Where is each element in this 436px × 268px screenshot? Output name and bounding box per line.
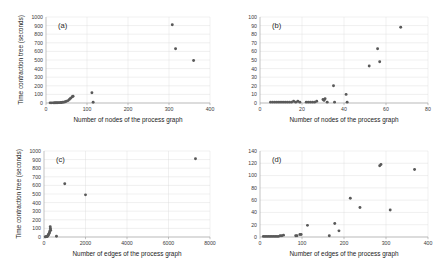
data-point	[282, 234, 285, 237]
data-point	[90, 91, 93, 94]
data-point	[368, 65, 371, 68]
data-point	[174, 47, 177, 50]
data-point	[380, 163, 383, 166]
data-point	[296, 234, 299, 237]
y-tick-label: 600	[34, 48, 43, 54]
plot-area-a: 0100200300400500600700800900100001002003…	[17, 14, 214, 124]
y-tick-label: 300	[32, 208, 41, 214]
data-point	[399, 26, 402, 29]
data-point	[194, 157, 197, 160]
y-tick-label: 0	[254, 234, 257, 240]
y-tick-label: 60	[251, 197, 257, 203]
y-tick-label: 70	[251, 40, 257, 46]
y-tick-label: 600	[32, 182, 41, 188]
data-point	[345, 93, 348, 96]
x-axis-title: Number of edges of the process graph	[289, 250, 399, 258]
data-point	[376, 47, 379, 50]
y-tick-label: 200	[34, 83, 43, 89]
data-point	[300, 233, 303, 236]
y-tick-label: 200	[32, 217, 41, 223]
x-tick-label: 0	[259, 240, 262, 246]
y-tick-label: 900	[32, 157, 41, 163]
data-point	[328, 234, 331, 237]
scatter-plot-c: 0100200300400500600700800900100002000400…	[0, 134, 218, 268]
x-tick-label: 0	[43, 240, 46, 246]
y-tick-label: 800	[32, 165, 41, 171]
y-tick-label: 500	[34, 57, 43, 63]
plot-area-b: 0102030405060708090100020406080Number of…	[248, 14, 431, 124]
y-tick-label: 140	[248, 148, 257, 154]
y-tick-label: 80	[251, 31, 257, 37]
y-tick-label: 10	[251, 91, 257, 97]
x-tick-label: 200	[124, 106, 133, 112]
y-tick-label: 40	[251, 209, 257, 215]
data-point	[55, 235, 58, 238]
data-point	[192, 59, 195, 62]
x-tick-label: 300	[165, 106, 174, 112]
x-tick-label: 200	[340, 240, 349, 246]
y-tick-label: 100	[34, 91, 43, 97]
y-tick-label: 700	[34, 40, 43, 46]
data-point	[306, 224, 309, 227]
y-tick-label: 100	[248, 172, 257, 178]
y-tick-label: 300	[34, 74, 43, 80]
y-tick-label: 700	[32, 174, 41, 180]
x-tick-label: 2000	[80, 240, 92, 246]
x-tick-label: 400	[424, 240, 433, 246]
data-point	[315, 100, 318, 103]
x-tick-label: 100	[298, 240, 307, 246]
data-point	[326, 101, 329, 104]
data-point	[84, 193, 87, 196]
y-tick-label: 100	[32, 225, 41, 231]
y-tick-label: 60	[251, 48, 257, 54]
chart-panel-a: 0100200300400500600700800900100001002003…	[0, 0, 218, 134]
panel-label: (d)	[272, 155, 282, 164]
x-axis-title: Number of nodes of the process graph	[73, 116, 183, 124]
panel-label: (b)	[272, 21, 282, 30]
data-point	[338, 229, 341, 232]
data-point	[378, 60, 381, 63]
y-tick-label: 1000	[29, 148, 41, 154]
y-tick-label: 1000	[31, 14, 43, 20]
data-point	[72, 95, 75, 98]
x-tick-label: 40	[341, 106, 347, 112]
data-point	[359, 206, 362, 209]
y-axis-title: Time contraction tree (seconds)	[15, 149, 23, 239]
y-tick-label: 80	[251, 185, 257, 191]
data-point	[298, 101, 301, 104]
y-axis-title: Time contraction tree (seconds)	[17, 15, 25, 105]
y-tick-label: 20	[251, 222, 257, 228]
data-point	[49, 229, 52, 232]
data-point	[171, 23, 174, 26]
chart-panel-c: 0100200300400500600700800900100002000400…	[0, 134, 218, 268]
y-tick-label: 400	[34, 66, 43, 72]
x-tick-label: 400	[206, 106, 215, 112]
y-tick-label: 120	[248, 160, 257, 166]
panel-label: (a)	[58, 21, 68, 30]
y-tick-label: 20	[251, 83, 257, 89]
x-tick-label: 80	[425, 106, 431, 112]
x-tick-label: 6000	[163, 240, 175, 246]
data-point	[349, 197, 352, 200]
data-point	[389, 209, 392, 212]
x-tick-label: 0	[45, 106, 48, 112]
y-tick-label: 90	[251, 23, 257, 29]
y-tick-label: 40	[251, 66, 257, 72]
x-tick-label: 60	[383, 106, 389, 112]
scatter-plot-a: 0100200300400500600700800900100001002003…	[0, 0, 218, 134]
y-tick-label: 0	[254, 100, 257, 106]
scatter-plot-b: 0102030405060708090100020406080Number of…	[218, 0, 436, 134]
y-tick-label: 800	[34, 31, 43, 37]
chart-panel-b: 0102030405060708090100020406080Number of…	[218, 0, 436, 134]
y-tick-label: 30	[251, 74, 257, 80]
data-point	[346, 101, 349, 104]
x-tick-label: 20	[299, 106, 305, 112]
y-tick-label: 900	[34, 23, 43, 29]
data-point	[413, 168, 416, 171]
y-tick-label: 400	[32, 200, 41, 206]
figure-container: 0100200300400500600700800900100001002003…	[0, 0, 436, 268]
x-axis-title: Number of nodes of the process graph	[289, 116, 399, 124]
x-tick-label: 300	[382, 240, 391, 246]
y-tick-label: 50	[251, 57, 257, 63]
plot-area-c: 0100200300400500600700800900100002000400…	[15, 148, 216, 258]
